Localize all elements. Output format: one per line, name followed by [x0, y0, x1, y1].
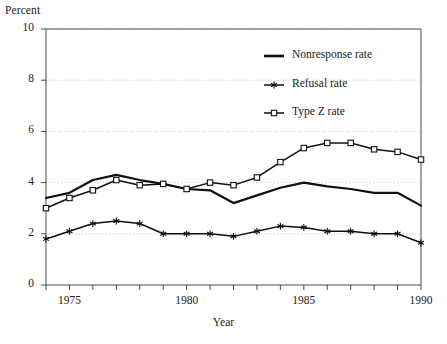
- square-marker: [90, 188, 95, 193]
- chart-figure: Percent Year 0246810 1975198019851990 No…: [0, 0, 447, 344]
- square-marker: [418, 157, 423, 162]
- data-series-layer: [43, 140, 424, 246]
- legend-label-0: Nonresponse rate: [292, 48, 372, 60]
- square-marker: [160, 181, 165, 186]
- square-marker: [348, 140, 353, 145]
- y-tick-label-0: 0: [8, 277, 34, 289]
- series-nonresponse-rate: [46, 175, 421, 206]
- axis-ticks: [41, 29, 421, 290]
- square-marker: [231, 182, 236, 187]
- x-tick-label-1990: 1990: [397, 294, 445, 306]
- legend-square-marker: [271, 110, 276, 115]
- square-marker: [301, 145, 306, 150]
- x-tick-label-1985: 1985: [280, 294, 328, 306]
- x-tick-label-1980: 1980: [163, 294, 211, 306]
- plot-frame: [46, 29, 421, 285]
- square-marker: [43, 206, 48, 211]
- y-axis-title: Percent: [5, 4, 40, 16]
- square-marker: [325, 140, 330, 145]
- square-marker: [184, 186, 189, 191]
- y-tick-label-10: 10: [8, 21, 34, 33]
- y-tick-label-8: 8: [8, 72, 34, 84]
- square-marker: [137, 182, 142, 187]
- x-tick-label-1975: 1975: [45, 294, 93, 306]
- y-tick-label-6: 6: [8, 123, 34, 135]
- y-tick-label-4: 4: [8, 175, 34, 187]
- series-type-z-rate: [43, 140, 423, 211]
- series-refusal-rate: [43, 218, 424, 247]
- square-marker: [278, 159, 283, 164]
- square-marker: [395, 149, 400, 154]
- square-marker: [67, 195, 72, 200]
- legend-label-2: Type Z rate: [292, 105, 345, 117]
- square-marker: [114, 177, 119, 182]
- chart-plot-area: [0, 0, 447, 344]
- square-marker: [254, 175, 259, 180]
- legend-label-1: Refusal rate: [292, 77, 347, 89]
- x-axis-title: Year: [0, 316, 447, 328]
- square-marker: [371, 147, 376, 152]
- series-line: [46, 143, 421, 208]
- series-line: [46, 175, 421, 206]
- square-marker: [207, 180, 212, 185]
- legend-line-samples: [264, 56, 284, 116]
- y-tick-label-2: 2: [8, 226, 34, 238]
